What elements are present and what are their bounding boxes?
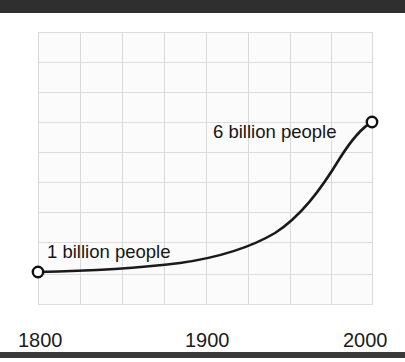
- figure-canvas: 1 billion people 6 billion people 1800 1…: [0, 0, 405, 362]
- top-rule-bar: [0, 0, 405, 13]
- data-point-marker-1800: [33, 267, 43, 277]
- x-tick-label-1900: 1900: [185, 329, 230, 352]
- plot-background: [38, 32, 372, 305]
- data-point-marker-2000: [367, 117, 377, 127]
- plot-area-wrapper: 1 billion people 6 billion people 1800 1…: [0, 13, 405, 352]
- x-tick-label-2000: 2000: [343, 329, 388, 352]
- line-chart-svg: [0, 13, 405, 352]
- bottom-rule-bar: [0, 352, 405, 358]
- x-tick-label-1800: 1800: [18, 329, 63, 352]
- annotation-6-billion: 6 billion people: [213, 121, 336, 143]
- annotation-1-billion: 1 billion people: [47, 241, 170, 263]
